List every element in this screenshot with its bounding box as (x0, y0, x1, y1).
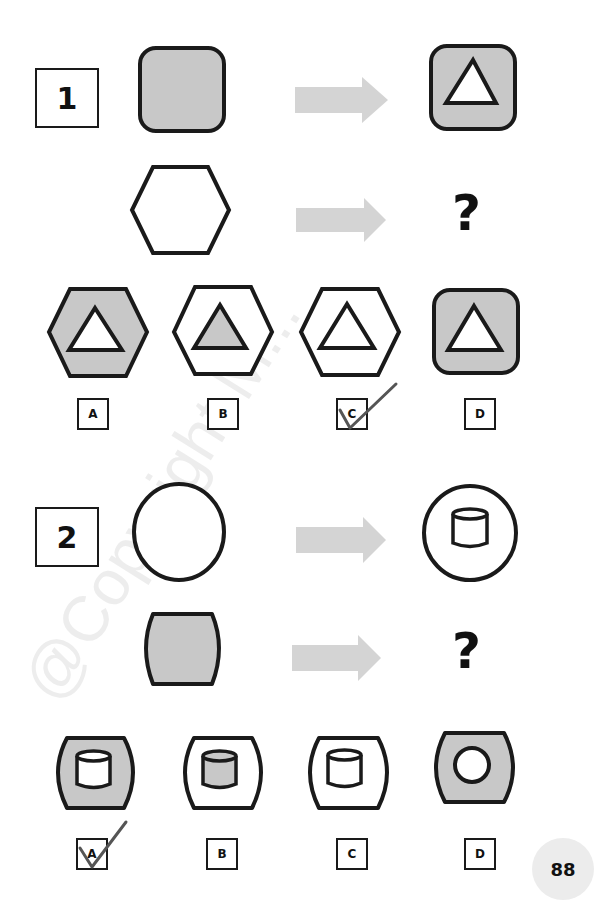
q1-option-c[interactable]: C (336, 398, 368, 430)
q1-option-a[interactable]: A (77, 398, 109, 430)
q2-option-d-figure (0, 0, 601, 917)
q1-example-from-figure (0, 0, 601, 917)
q2-prompt-from-figure (0, 0, 601, 917)
q2-option-b[interactable]: B (206, 838, 238, 870)
arrow-right-icon (0, 0, 601, 917)
question-number-1: 1 (35, 68, 99, 128)
arrow-right-icon (0, 0, 601, 917)
arrow-right-icon (0, 0, 601, 917)
q1-question-mark: ? (452, 188, 481, 238)
q1-option-c-figure (0, 0, 601, 917)
q2-option-d[interactable]: D (464, 838, 496, 870)
copyright-watermark: @Copyright M... (7, 282, 315, 714)
q2-option-a[interactable]: A (76, 838, 108, 870)
q1-option-d-figure (0, 0, 601, 917)
q2-option-b-figure (0, 0, 601, 917)
q1-option-b-figure (0, 0, 601, 917)
q2-option-c[interactable]: C (336, 838, 368, 870)
q2-example-from-figure (0, 0, 601, 917)
q2-option-a-figure (0, 0, 601, 917)
checkmark-icon (0, 0, 601, 917)
q2-example-to-figure (0, 0, 601, 917)
q2-question-mark: ? (452, 626, 481, 676)
q1-option-a-figure (0, 0, 601, 917)
checkmark-icon (0, 0, 601, 917)
q1-option-d[interactable]: D (464, 398, 496, 430)
q1-prompt-from-figure (0, 0, 601, 917)
page-number-badge: 88 (532, 838, 594, 900)
q1-option-b[interactable]: B (207, 398, 239, 430)
q1-example-to-figure (0, 0, 601, 917)
question-number-2: 2 (35, 507, 99, 567)
arrow-right-icon (0, 0, 601, 917)
q2-option-c-figure (0, 0, 601, 917)
